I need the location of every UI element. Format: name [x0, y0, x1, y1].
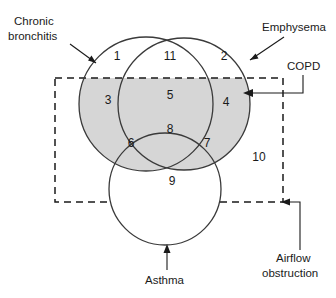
venn-diagram-canvas: 1 11 2 3 5 4 6 8 7 9 10 Chronic bronchit…	[0, 0, 336, 298]
chronic-bronchitis-label-line1: Chronic	[14, 15, 54, 27]
region-count-9: 9	[169, 174, 176, 188]
region-count-5: 5	[167, 88, 174, 102]
chronic-bronchitis-label-line2: bronchitis	[8, 30, 57, 42]
airflow-obstruction-leader-line	[288, 202, 300, 250]
region-count-4: 4	[223, 95, 230, 109]
region-count-3: 3	[105, 93, 112, 107]
region-count-6: 6	[128, 136, 135, 150]
airflow-obstruction-label-line2: obstruction	[262, 267, 318, 279]
venn-diagram-figure: 1 11 2 3 5 4 6 8 7 9 10 Chronic bronchit…	[0, 0, 336, 298]
asthma-label: Asthma	[145, 274, 185, 286]
region-count-8: 8	[167, 122, 174, 136]
region-count-7: 7	[204, 136, 211, 150]
chronic-bronchitis-arrowhead	[88, 56, 96, 64]
copd-label: COPD	[287, 60, 320, 72]
airflow-obstruction-label-line1: Airflow	[276, 252, 311, 264]
region-count-2: 2	[221, 49, 228, 63]
region-count-10: 10	[252, 150, 266, 164]
emphysema-label: Emphysema	[262, 21, 327, 33]
region-count-11: 11	[164, 49, 177, 63]
region-count-1: 1	[114, 49, 121, 63]
